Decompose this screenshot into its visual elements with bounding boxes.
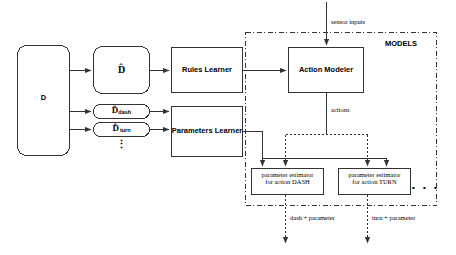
diagram-canvas: D D̂ D̂dash D̂turn ⋮ Rules Learner Param… [0, 0, 456, 255]
box-rules-learner [172, 48, 243, 93]
box-data-source [18, 46, 70, 156]
edge-parameters-learner-to-estimators [243, 132, 387, 159]
box-d-hat-dash [94, 105, 150, 119]
box-d-hat-turn [94, 123, 150, 137]
box-param-estimator-dash [252, 169, 324, 195]
diagram-vector-layer [0, 0, 456, 255]
box-parameters-learner [172, 107, 243, 157]
box-d-hat [94, 47, 150, 94]
box-param-estimator-turn [339, 169, 411, 195]
box-action-modeler [289, 48, 364, 93]
